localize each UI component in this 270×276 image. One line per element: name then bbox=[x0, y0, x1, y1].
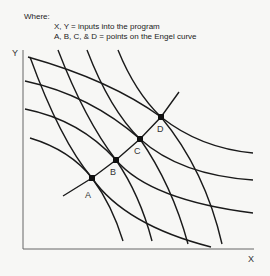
point-b-label: B bbox=[110, 167, 116, 177]
y-axis-label: Y bbox=[12, 48, 18, 58]
point-a-label: A bbox=[85, 190, 91, 200]
isoquant-2 bbox=[25, 81, 253, 180]
point-b-marker bbox=[113, 157, 119, 163]
point-d-label: D bbox=[157, 124, 164, 134]
steep-curve-1 bbox=[30, 57, 123, 241]
engel-curve-diagram: Y X A B C D bbox=[0, 0, 270, 276]
point-c-marker bbox=[137, 136, 143, 142]
point-a-marker bbox=[89, 175, 95, 181]
point-d-marker bbox=[158, 114, 164, 120]
engel-curve bbox=[63, 92, 179, 196]
point-c-label: C bbox=[134, 146, 141, 156]
isoquant-3 bbox=[25, 109, 253, 213]
x-axis-label: X bbox=[248, 254, 254, 264]
